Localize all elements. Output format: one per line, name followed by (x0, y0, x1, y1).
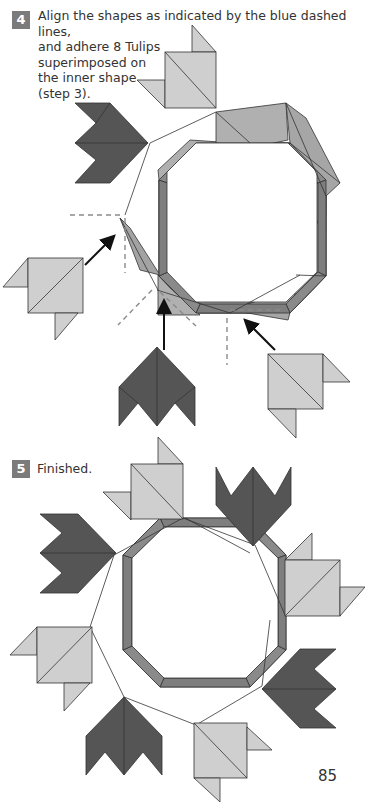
step-5-tulip-top-light (103, 437, 183, 520)
origami-diagram (0, 0, 365, 802)
step-5-tulip-bottom-light (194, 723, 272, 802)
step-5-tulip-left-dark (40, 514, 116, 593)
step-5-badge: 5 (12, 460, 30, 478)
step-4-loose-tulip-right (268, 354, 350, 438)
step-4-tulip-left-dark (75, 103, 148, 183)
step-4-loose-tulip-left (3, 258, 83, 340)
step-5-tulip-bottom-dark (86, 697, 162, 775)
step-4-loose-tulip-bottom (119, 347, 195, 426)
step-4-tulip-top-light (137, 25, 216, 108)
step-5-line-1: Finished. (37, 461, 92, 477)
step-5-tulip-left-light (10, 627, 92, 711)
step-5-instructions: Finished. (37, 461, 92, 477)
step-4-ring (120, 103, 340, 320)
step-5-ring (90, 518, 286, 725)
page-number: 85 (318, 767, 337, 785)
step-5-tulip-right-light (285, 533, 365, 616)
